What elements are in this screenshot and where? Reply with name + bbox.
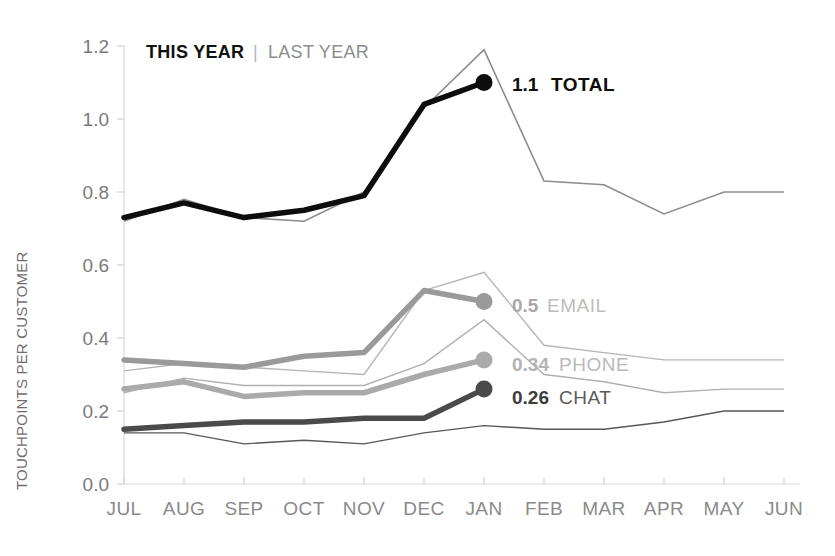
series-layer <box>124 50 784 444</box>
annotation-phone: 0.34 PHONE <box>512 354 629 375</box>
x-tick-label: APR <box>644 498 684 519</box>
annotation-phone-label: PHONE <box>559 354 629 375</box>
annotation-chat-value: 0.26 <box>512 387 549 408</box>
y-tick-label: 0.4 <box>83 328 110 349</box>
annotation-email: 0.5 EMAIL <box>512 295 607 316</box>
endpoint-dot-chat <box>476 381 493 398</box>
annotation-chat-label: CHAT <box>559 387 611 408</box>
line-chart-figure: TOUCHPOINTS PER CUSTOMER 0.00.20.40.60.8… <box>0 0 835 556</box>
x-tick-label: SEP <box>224 498 263 519</box>
y-axis-ticks: 0.00.20.40.60.81.01.2 <box>83 36 124 495</box>
x-tick-label: MAY <box>704 498 745 519</box>
annotation-chat: 0.26 CHAT <box>512 387 611 408</box>
legend-this-year: THIS YEAR <box>146 42 244 62</box>
annotation-email-value: 0.5 <box>512 295 539 316</box>
y-tick-label: 1.2 <box>83 36 109 57</box>
x-tick-label: DEC <box>403 498 444 519</box>
legend-last-year: LAST YEAR <box>268 42 369 62</box>
series-line-email-last-year <box>124 272 784 374</box>
series-line-total-last-year <box>124 50 784 222</box>
x-tick-label: JAN <box>465 498 502 519</box>
y-tick-label: 1.0 <box>83 109 109 130</box>
annotation-total-value: 1.1 <box>512 74 539 95</box>
x-tick-label: MAR <box>582 498 625 519</box>
endpoint-dot-total <box>476 74 493 91</box>
series-line-chat-last-year <box>124 411 784 444</box>
endpoint-markers <box>476 74 493 398</box>
x-tick-label: JUL <box>107 498 142 519</box>
y-tick-label: 0.0 <box>83 474 109 495</box>
endpoint-dot-phone <box>476 351 493 368</box>
series-line-total-this-year <box>124 83 484 218</box>
legend-separator: | <box>253 42 258 62</box>
y-tick-label: 0.2 <box>83 401 109 422</box>
series-line-phone-last-year <box>124 320 784 393</box>
annotation-phone-value: 0.34 <box>512 354 549 375</box>
endpoint-dot-email <box>476 293 493 310</box>
annotation-total: 1.1 TOTAL <box>512 74 615 95</box>
annotation-total-label: TOTAL <box>551 74 615 95</box>
y-axis-title: TOUCHPOINTS PER CUSTOMER <box>13 252 30 490</box>
x-tick-label: NOV <box>343 498 385 519</box>
y-tick-label: 0.6 <box>83 255 109 276</box>
x-tick-label: OCT <box>283 498 324 519</box>
x-tick-label: JUN <box>765 498 803 519</box>
annotation-email-label: EMAIL <box>547 295 607 316</box>
legend: THIS YEAR | LAST YEAR <box>146 42 369 62</box>
y-tick-label: 0.8 <box>83 182 109 203</box>
x-tick-label: AUG <box>163 498 205 519</box>
x-tick-label: FEB <box>525 498 563 519</box>
x-axis-ticks: JULAUGSEPOCTNOVDECJANFEBMARAPRMAYJUN <box>107 477 804 519</box>
series-line-email-this-year <box>124 291 484 368</box>
chart-canvas: TOUCHPOINTS PER CUSTOMER 0.00.20.40.60.8… <box>0 0 835 556</box>
